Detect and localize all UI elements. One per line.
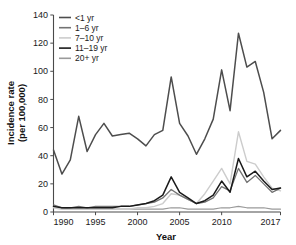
y-tick-label: 120 [33,38,48,48]
line-chart: 020406080100120140 199019952000200520102… [0,0,296,245]
x-tick-label: 2017 [260,217,280,227]
x-tick-label: 2000 [128,217,148,227]
x-tick-label: 2010 [212,217,232,227]
legend-label-3: 11–19 yr [75,43,108,53]
y-axis-title-line2: (per 100,000) [16,84,27,142]
y-tick-label: 80 [38,95,48,105]
legend-label-4: 20+ yr [75,53,99,63]
y-axis-tick-labels: 020406080100120140 [33,10,54,217]
x-tick-label: 1995 [86,217,106,227]
x-tick-label: 1990 [54,217,74,227]
x-tick-label: 2005 [170,217,190,227]
chart-legend: <1 yr1–6 yr7–10 yr11–19 yr20+ yr [59,13,108,64]
y-tick-label: 20 [38,179,48,189]
legend-label-0: <1 yr [75,13,94,23]
chart-figure: 020406080100120140 199019952000200520102… [0,0,296,245]
y-tick-label: 40 [38,151,48,161]
y-tick-label: 0 [43,207,48,217]
series-line-7-10-yr [54,132,281,209]
series-line-11-19-yr [54,159,281,208]
y-tick-label: 100 [33,66,48,76]
y-axis-title-line1: Incidence rate [5,81,16,145]
legend-label-1: 1–6 yr [75,23,99,33]
legend-label-2: 7–10 yr [75,33,104,43]
y-tick-label: 60 [38,123,48,133]
y-tick-label: 140 [33,10,48,20]
x-axis-tick-labels: 199019952000200520102017 [54,212,281,227]
x-axis-title: Year [156,231,176,242]
